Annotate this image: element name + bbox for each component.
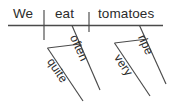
object-word-tomatoes: tomatoes	[98, 7, 154, 21]
verb-word-eat: eat	[55, 7, 74, 21]
sentence-diagram: We eat tomatoes often quite ripe very	[0, 0, 180, 103]
subject-word-we: We	[13, 7, 33, 21]
